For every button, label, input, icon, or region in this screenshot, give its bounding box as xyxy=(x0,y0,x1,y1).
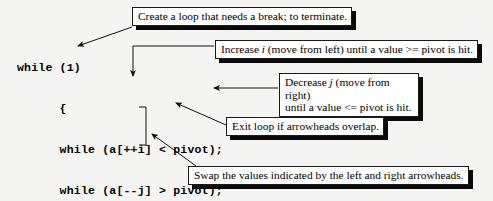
code-line: while (a[++i] < pivot); xyxy=(17,143,223,157)
callout-decrease-j-line1: Decrease j (move from right) xyxy=(285,76,414,101)
code-line: while (a[--j] > pivot); xyxy=(17,184,223,198)
annotated-code-figure: while (1) { while (a[++i] < pivot); whil… xyxy=(0,0,493,201)
callout-decrease-j-line2: until a value <= pivot is hit. xyxy=(285,101,414,114)
callout-increase-i-text-after: (move from left) until a value >= pivot … xyxy=(265,43,473,55)
callout-exit-loop-text: Exit loop if arrowheads overlap. xyxy=(232,120,379,133)
callout-swap-text: Swap the values indicated by the left an… xyxy=(194,169,464,182)
code-line: while (1) xyxy=(17,61,223,75)
code-line: { xyxy=(17,102,223,116)
callout-decrease-j-line1-before: Decrease xyxy=(285,76,330,88)
callout-swap: Swap the values indicated by the left an… xyxy=(188,166,469,185)
callout-increase-i: Increase i (move from left) until a valu… xyxy=(215,40,478,59)
callout-decrease-j: Decrease j (move from right) until a val… xyxy=(279,73,419,117)
callout-increase-i-text-before: Increase xyxy=(221,43,262,55)
callout-create-loop: Create a loop that needs a break; to ter… xyxy=(132,7,352,26)
callout-exit-loop: Exit loop if arrowheads overlap. xyxy=(226,117,384,136)
callout-create-loop-text: Create a loop that needs a break; to ter… xyxy=(138,10,347,23)
callout-increase-i-text: Increase i (move from left) until a valu… xyxy=(221,43,473,56)
